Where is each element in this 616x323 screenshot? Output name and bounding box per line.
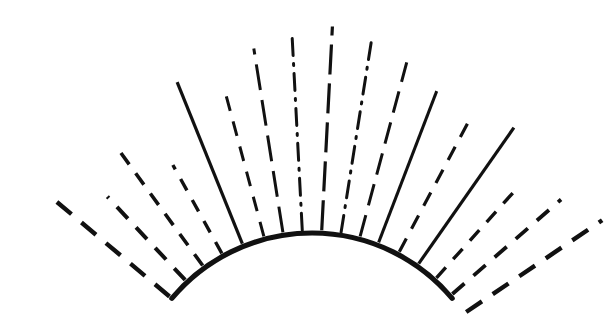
- figure-root: [0, 0, 616, 323]
- ray-diagram-svg: [0, 0, 616, 323]
